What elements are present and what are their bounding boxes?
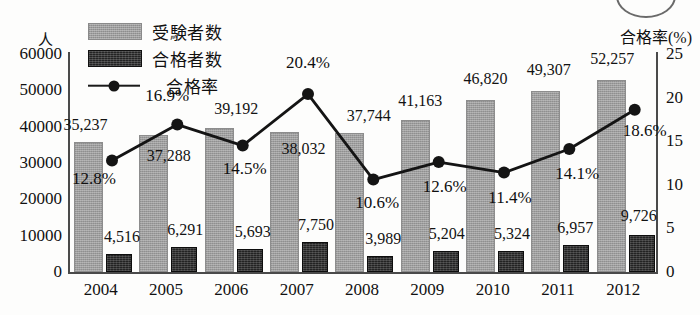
x-axis-label-2007: 2007	[280, 280, 314, 300]
x-axis-label-2009: 2009	[410, 280, 444, 300]
gray-bar-swatch-icon	[88, 23, 142, 40]
value-label-applicants-2006: 39,192	[214, 100, 258, 118]
y-tick-right-10: 10	[666, 175, 683, 195]
bar-applicants-2010	[466, 100, 495, 272]
value-label-passers-2009: 5,204	[429, 225, 465, 243]
bar-passers-2008	[367, 256, 393, 272]
x-axis-line	[68, 272, 658, 274]
x-axis-label-2006: 2006	[214, 280, 248, 300]
bar-applicants-2004	[74, 142, 103, 272]
value-label-pass-rate-2004: 12.8%	[72, 169, 116, 189]
value-label-applicants-2004: 35,237	[64, 116, 108, 134]
bar-passers-2010	[498, 251, 524, 272]
y-tick-left-10000: 10000	[0, 226, 62, 246]
corner-arc-decoration	[616, 0, 676, 18]
bar-passers-2007	[302, 242, 328, 272]
value-label-passers-2008: 3,989	[365, 230, 401, 248]
value-label-pass-rate-2009: 12.6%	[423, 177, 467, 197]
value-label-applicants-2007: 38,032	[282, 140, 326, 158]
value-label-applicants-2008: 37,744	[347, 107, 391, 125]
value-label-pass-rate-2005: 16.9%	[145, 86, 189, 106]
bar-passers-2011	[563, 245, 589, 272]
bar-passers-2005	[171, 247, 197, 272]
value-label-passers-2012: 9,726	[621, 207, 657, 225]
value-label-applicants-2010: 46,820	[464, 70, 508, 88]
bar-applicants-2012	[597, 80, 626, 272]
bar-passers-2009	[433, 251, 459, 272]
value-label-passers-2007: 7,750	[298, 216, 334, 234]
legend-item-applicants: 受験者数	[88, 18, 318, 45]
y-tick-left-40000: 40000	[0, 117, 62, 137]
bar-passers-2004	[106, 254, 132, 272]
y-tick-left-30000: 30000	[0, 153, 62, 173]
value-label-applicants-2011: 49,307	[527, 61, 571, 79]
value-label-passers-2006: 5,693	[235, 223, 271, 241]
y-tick-right-0: 0	[666, 262, 675, 282]
value-label-pass-rate-2010: 11.4%	[488, 188, 531, 208]
value-label-pass-rate-2006: 14.5%	[223, 159, 267, 179]
y-tick-left-20000: 20000	[0, 189, 62, 209]
value-label-passers-2010: 5,324	[494, 225, 530, 243]
y-tick-left-60000: 60000	[0, 44, 62, 64]
value-label-applicants-2005: 37,288	[147, 147, 191, 165]
value-label-passers-2011: 6,957	[557, 219, 593, 237]
x-axis-label-2004: 2004	[84, 280, 118, 300]
value-label-pass-rate-2008: 10.6%	[355, 193, 399, 213]
value-label-passers-2005: 6,291	[167, 221, 203, 239]
value-label-passers-2004: 4,516	[104, 228, 140, 246]
x-axis-label-2010: 2010	[476, 280, 510, 300]
legend-label-applicants: 受験者数	[152, 19, 222, 44]
x-axis-label-2005: 2005	[149, 280, 183, 300]
y-tick-right-25: 25	[666, 44, 683, 64]
bar-applicants-2006	[205, 128, 234, 272]
chart-page: 人 合格率(%) 受験者数 合格者数 合格率 01000020000300004…	[0, 0, 700, 315]
value-label-pass-rate-2007: 20.4%	[286, 53, 330, 73]
y-tick-right-20: 20	[666, 88, 683, 108]
bar-passers-2012	[629, 235, 655, 272]
value-label-pass-rate-2011: 14.1%	[555, 164, 599, 184]
bar-passers-2006	[237, 249, 263, 272]
value-label-applicants-2009: 41,163	[398, 92, 442, 110]
value-label-applicants-2012: 52,257	[590, 50, 634, 68]
y-tick-right-5: 5	[666, 218, 675, 238]
y-tick-left-0: 0	[0, 262, 62, 282]
value-label-pass-rate-2012: 18.6%	[623, 121, 667, 141]
x-axis-label-2012: 2012	[606, 280, 640, 300]
y-tick-left-50000: 50000	[0, 80, 62, 100]
y-tick-right-15: 15	[666, 131, 683, 151]
x-axis-label-2011: 2011	[541, 280, 574, 300]
x-axis-label-2008: 2008	[345, 280, 379, 300]
